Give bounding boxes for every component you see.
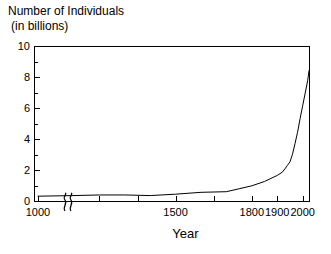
y-tick-label: 4 [4,134,30,145]
population-growth-chart: Number of Individuals (in billions) 1086… [0,0,331,254]
plot-area [34,46,310,202]
y-axis-title-line-2: (in billions) [11,19,68,33]
x-tick-label: 1500 [156,207,196,218]
x-tick-label: 2000 [283,207,323,218]
population-curve [34,46,310,202]
y-tick-label: 8 [4,72,30,83]
y-tick-label: 6 [4,103,30,114]
y-axis-title-line-1: Number of Individuals [8,4,124,18]
x-tick-label: 1000 [18,207,58,218]
x-axis-title: Year [0,226,331,241]
y-tick-label: 10 [4,41,30,52]
axis-break-icon [60,192,78,212]
y-tick-label: 2 [4,165,30,176]
